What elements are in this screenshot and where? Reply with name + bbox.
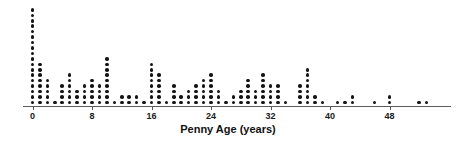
data-dot	[217, 95, 221, 99]
data-dot	[83, 90, 87, 94]
data-dot	[209, 95, 213, 99]
x-axis-tick-label: 24	[206, 111, 216, 122]
data-dot	[254, 95, 258, 99]
data-dot	[321, 101, 325, 105]
data-dot	[157, 90, 161, 94]
data-dot	[276, 90, 280, 94]
data-dot	[150, 84, 154, 88]
data-dot	[113, 101, 117, 105]
data-dot	[284, 101, 288, 105]
data-dot	[172, 84, 176, 88]
data-dot	[135, 101, 139, 105]
data-dot	[246, 84, 250, 88]
data-dot	[388, 95, 392, 99]
data-dot	[75, 95, 79, 99]
data-dot	[202, 84, 206, 88]
data-dot	[105, 79, 109, 83]
data-dot	[306, 73, 310, 77]
data-dot	[38, 79, 42, 83]
data-dot	[31, 57, 35, 61]
x-axis-tick	[390, 107, 391, 110]
data-dot	[306, 95, 310, 99]
data-dot	[261, 101, 265, 105]
data-dot	[53, 101, 57, 105]
data-dot	[157, 95, 161, 99]
data-dot	[269, 90, 273, 94]
data-dot	[98, 90, 102, 94]
x-axis-tick	[330, 107, 331, 110]
data-dot	[46, 101, 50, 105]
data-dot	[269, 95, 273, 99]
data-dot	[179, 101, 183, 105]
data-dot	[120, 101, 124, 105]
data-dot	[313, 95, 317, 99]
data-dot	[68, 84, 72, 88]
data-dot	[90, 101, 94, 105]
data-dot	[232, 95, 236, 99]
data-dot	[31, 84, 35, 88]
data-dot	[209, 73, 213, 77]
x-axis-tick	[92, 107, 93, 110]
data-dot	[46, 90, 50, 94]
data-dot	[239, 90, 243, 94]
data-dot	[150, 73, 154, 77]
dot-plot-figure: 081624324048 Penny Age (years)	[0, 0, 456, 143]
data-dot	[269, 84, 273, 88]
data-dot	[31, 52, 35, 56]
data-dot	[261, 79, 265, 83]
data-dot	[261, 84, 265, 88]
data-dot	[150, 63, 154, 67]
data-dot	[31, 90, 35, 94]
data-dot	[135, 95, 139, 99]
data-dot	[298, 84, 302, 88]
data-dot	[105, 57, 109, 61]
data-dot	[246, 90, 250, 94]
data-dot	[194, 101, 198, 105]
data-dot	[90, 84, 94, 88]
data-dot	[83, 101, 87, 105]
data-dot	[75, 101, 79, 105]
data-dot	[306, 84, 310, 88]
data-dot	[209, 90, 213, 94]
data-dot	[157, 101, 161, 105]
data-dot	[261, 90, 265, 94]
data-dot	[105, 95, 109, 99]
data-dot	[209, 79, 213, 83]
data-dot	[105, 84, 109, 88]
data-dot	[105, 68, 109, 72]
data-dot	[187, 101, 191, 105]
x-axis-tick-label: 32	[265, 111, 275, 122]
data-dot	[269, 101, 273, 105]
data-dot	[150, 95, 154, 99]
data-dot	[105, 90, 109, 94]
data-dot	[254, 101, 258, 105]
data-dot	[150, 68, 154, 72]
data-dot	[31, 68, 35, 72]
data-dot	[343, 101, 347, 105]
data-dot	[202, 95, 206, 99]
data-dot	[90, 79, 94, 83]
data-dot	[105, 101, 109, 105]
x-axis-line	[23, 106, 451, 107]
data-dot	[313, 101, 317, 105]
data-dot	[31, 63, 35, 67]
data-dot	[31, 46, 35, 50]
data-dot	[150, 90, 154, 94]
data-dot	[232, 101, 236, 105]
data-dot	[105, 73, 109, 77]
data-dot	[246, 101, 250, 105]
x-axis-tick	[152, 107, 153, 110]
data-dot	[306, 90, 310, 94]
data-dot	[90, 95, 94, 99]
data-dot	[46, 84, 50, 88]
data-dot	[60, 101, 64, 105]
data-dot	[31, 24, 35, 28]
data-dot	[150, 101, 154, 105]
data-dot	[68, 73, 72, 77]
data-dot	[194, 84, 198, 88]
data-dot	[194, 95, 198, 99]
data-dot	[246, 95, 250, 99]
data-dot	[60, 84, 64, 88]
data-dot	[261, 95, 265, 99]
data-dot	[202, 101, 206, 105]
